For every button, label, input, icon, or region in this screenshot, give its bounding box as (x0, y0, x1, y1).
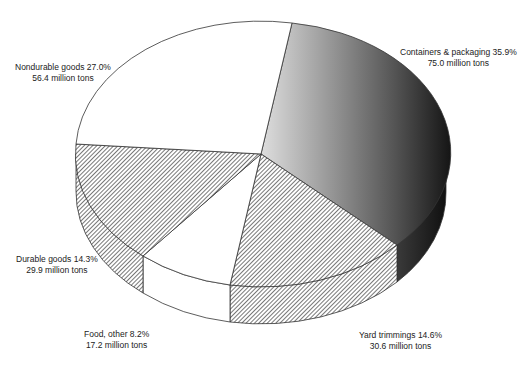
label-food-name: Food, other 8.2% (84, 329, 149, 340)
label-food: Food, other 8.2% 17.2 million tons (84, 329, 149, 351)
label-yard-name: Yard trimmings 14.6% (359, 330, 442, 341)
label-containers: Containers & packaging 35.9% 75.0 millio… (400, 47, 517, 69)
label-nondurable-name: Nondurable goods 27.0% (15, 62, 111, 73)
label-nondurable: Nondurable goods 27.0% 56.4 million tons (15, 62, 111, 84)
label-yard: Yard trimmings 14.6% 30.6 million tons (359, 330, 442, 352)
label-durable-name: Durable goods 14.3% (16, 254, 98, 265)
label-durable: Durable goods 14.3% 29.9 million tons (16, 254, 98, 276)
label-durable-value: 29.9 million tons (16, 265, 98, 276)
label-nondurable-value: 56.4 million tons (15, 73, 111, 84)
label-containers-name: Containers & packaging 35.9% (400, 47, 517, 58)
slice-nondurable (76, 21, 292, 154)
label-containers-value: 75.0 million tons (400, 58, 517, 69)
label-food-value: 17.2 million tons (84, 340, 149, 351)
label-yard-value: 30.6 million tons (359, 341, 442, 352)
